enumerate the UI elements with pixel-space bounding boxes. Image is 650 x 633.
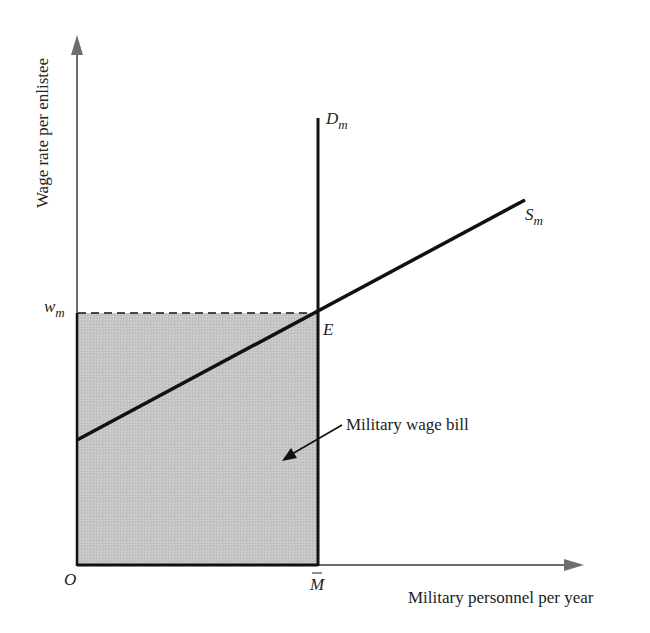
origin-label: O — [64, 570, 76, 589]
wage-label: wm — [44, 297, 65, 320]
y-axis-label: Wage rate per enlistee — [33, 58, 52, 208]
military-wage-bill-area — [77, 313, 318, 565]
x-axis-arrow-icon — [564, 559, 584, 571]
quantity-label: M — [309, 575, 325, 594]
demand-label: Dm — [325, 109, 348, 132]
equilibrium-label: E — [322, 320, 334, 339]
x-axis-label: Military personnel per year — [408, 588, 594, 607]
supply-label: Sm — [525, 205, 543, 228]
y-axis-arrow-icon — [71, 35, 83, 55]
wage-bill-diagram: Wage rate per enlistee Military personne… — [0, 0, 650, 633]
wage-bill-label: Military wage bill — [346, 415, 469, 434]
